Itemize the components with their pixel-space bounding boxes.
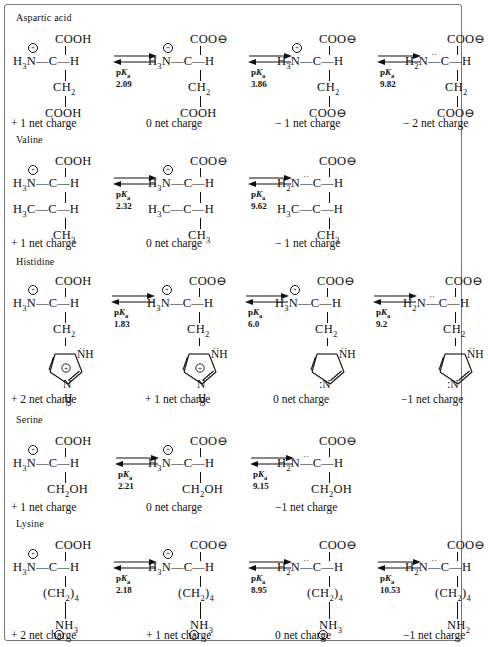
carboxyl-group: COOH	[27, 275, 131, 288]
bond: —	[298, 296, 311, 310]
pka-value: 2.32	[116, 201, 132, 211]
ring-nitrogen-label: NH	[339, 349, 356, 361]
side-chain-ch2oh: CH2OH	[277, 483, 395, 498]
lone-pair-icon: ··	[431, 556, 437, 565]
bond: —	[57, 296, 70, 310]
ring-nitrogen-label: N	[197, 379, 205, 391]
alpha-carbon-label: C	[49, 560, 58, 574]
alpha-hydrogen: H	[462, 560, 471, 574]
svg-text:+: +	[198, 365, 202, 373]
bond	[200, 192, 201, 203]
bond	[199, 312, 200, 323]
equilibrium-arrows-icon	[377, 51, 421, 67]
equilibrium-arrow-group: pKa9.82	[377, 51, 421, 90]
molecule-structure: COO⊖H2N··—C—HCH2OH	[277, 435, 395, 498]
amino-acid-name: Lysine	[5, 517, 461, 530]
net-charge-caption: + 1 net charge	[11, 501, 76, 513]
amino-acid-name: Aspartic acid	[5, 11, 461, 24]
alpha-hydrogen: H	[460, 296, 469, 310]
pka-value: 2.18	[116, 585, 132, 595]
net-charge-caption: − 1 net charge	[275, 117, 340, 129]
lone-pair-icon: ··	[303, 452, 309, 461]
bond: —	[321, 176, 334, 190]
bond	[455, 338, 456, 346]
pka-value: 2.21	[118, 481, 134, 491]
alpha-carbon-label: C	[184, 560, 193, 574]
bond: —	[192, 560, 205, 574]
bond: —	[57, 456, 70, 470]
amino-acid-section-valine: ValineCOOHH3N+—C—HH3C—C—HCH3+ 1 net char…	[5, 133, 461, 255]
ring-nitrogen-label: NH	[77, 349, 94, 361]
bond: —	[192, 54, 205, 68]
bond: —	[171, 176, 184, 190]
positive-charge-icon: +	[163, 43, 173, 53]
ring-nitrogen-label: N	[63, 379, 71, 391]
ring-nitrogen-lone-pair: :N	[447, 379, 459, 391]
net-charge-caption: −1 net charge	[403, 629, 465, 641]
amino-group: H3N	[13, 176, 36, 190]
amino-group: H3N	[13, 296, 36, 310]
alpha-hydrogen: H	[70, 456, 79, 470]
bond: —	[447, 296, 460, 310]
svg-text:+: +	[64, 365, 68, 373]
pka-label: pKa10.53	[377, 574, 421, 596]
carboxyl-group: COO⊖	[162, 33, 266, 46]
equilibrium-arrow-group: pKa2.21	[115, 453, 159, 492]
pka-label: pKa9.62	[248, 190, 292, 212]
bond	[200, 96, 201, 107]
bond	[329, 70, 330, 81]
amino-acid-section-histidine: HistidineCOOHH3N+—C—HCH2+··NHNH+ 2 net c…	[5, 255, 461, 413]
alpha-hydrogen: H	[334, 176, 343, 190]
alpha-carbon-row: H2N··—C—H	[277, 457, 395, 472]
amino-acid-name: Serine	[5, 413, 461, 426]
bond: —	[171, 456, 184, 470]
carboxyl-group: COO⊖	[161, 275, 265, 288]
figure-page: Aspartic acidCOOHH3N+—C—HCH2COOH+ 1 net …	[4, 4, 462, 641]
net-charge-caption: 0 net charge	[146, 501, 202, 513]
positive-charge-icon: +	[162, 285, 172, 295]
equilibrium-arrow-group: pKa9.15	[250, 453, 294, 492]
pka-label: pKa9.2	[373, 308, 417, 330]
carboxyl-group: COO⊖	[162, 435, 266, 448]
bond	[65, 472, 66, 483]
bond	[200, 70, 201, 81]
net-charge-caption: + 1 net charge	[11, 237, 76, 249]
bond	[65, 576, 66, 587]
alpha-carbon-label: C	[313, 54, 322, 68]
bond	[65, 602, 66, 619]
bond: —	[36, 560, 49, 574]
equilibrium-arrow-group: pKa3.86	[248, 51, 292, 90]
carboxyl-group: COO⊖	[291, 155, 395, 168]
equilibrium-arrows-icon	[248, 51, 292, 67]
bond	[200, 472, 201, 483]
positive-charge-icon: +	[28, 165, 38, 175]
carboxyl-group: COO⊖	[162, 539, 266, 552]
bond	[65, 312, 66, 323]
net-charge-caption: + 1 net charge	[145, 393, 210, 405]
bond	[199, 338, 200, 346]
net-charge-caption: −1 net charge	[401, 393, 463, 405]
amino-group: H3N	[13, 456, 36, 470]
net-charge-caption: + 1 net charge	[146, 629, 211, 641]
bond	[65, 192, 66, 203]
equilibrium-arrows-icon	[111, 291, 155, 307]
bond: —	[192, 456, 205, 470]
net-charge-caption: + 2 net charge	[11, 629, 76, 641]
net-charge-caption: 0 net charge	[275, 629, 331, 641]
pka-value: 9.2	[376, 319, 387, 329]
alpha-carbon-label: C	[311, 296, 320, 310]
bond	[457, 96, 458, 107]
alpha-hydrogen: H	[205, 54, 214, 68]
bond: —	[191, 296, 204, 310]
bond: —	[300, 54, 313, 68]
bond	[327, 312, 328, 323]
amino-acid-section-serine: SerineCOOHH3N+—C—HCH2OH+ 1 net chargeCOO…	[5, 413, 461, 517]
carboxyl-group: COOH	[27, 155, 131, 168]
carboxyl-group: COO⊖	[419, 33, 488, 46]
alpha-hydrogen: H	[334, 456, 343, 470]
molecule-structure: COOHH3N+—C—HCH2OH	[13, 435, 131, 498]
alpha-hydrogen: H	[205, 560, 214, 574]
alpha-hydrogen: H	[70, 560, 79, 574]
bond: —	[319, 296, 332, 310]
equilibrium-arrows-icon	[113, 173, 157, 189]
